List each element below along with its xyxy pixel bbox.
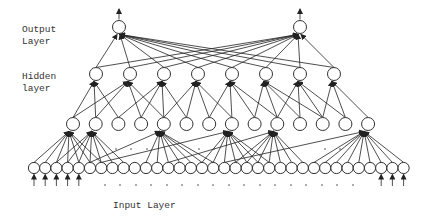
lower-hidden-neuron — [339, 118, 352, 131]
input-neuron — [51, 162, 62, 173]
input-neuron — [185, 162, 196, 173]
lower-hidden-neuron — [316, 118, 329, 131]
lower-hidden-neuron — [248, 118, 261, 131]
ellipsis-dot — [119, 184, 121, 186]
input-neuron — [264, 162, 275, 173]
lower-hidden-neuron — [89, 118, 102, 131]
connection-edge — [230, 82, 255, 118]
output-neuron — [113, 21, 126, 34]
ellipsis-dot — [336, 184, 338, 186]
connection-edge — [128, 82, 141, 118]
connection-edge — [273, 132, 291, 163]
input-neuron — [320, 162, 331, 173]
ellipsis-dot — [150, 184, 152, 186]
input-neuron — [107, 162, 118, 173]
ellipsis-dot — [290, 184, 292, 186]
output-layer-label-line2: Layer — [22, 36, 51, 47]
connection-edge — [68, 132, 69, 163]
connection-edge — [264, 82, 323, 118]
connection-edge — [168, 132, 273, 163]
connection-edge — [96, 35, 117, 68]
upper-hidden-neuron — [158, 68, 171, 81]
input-neuron — [342, 162, 353, 173]
connection-edge — [332, 82, 368, 118]
ellipsis-dot — [212, 184, 214, 186]
upper-hidden-neuron — [294, 68, 307, 81]
input-neuron — [118, 162, 129, 173]
connection-edge — [273, 132, 303, 163]
input-neuron — [219, 162, 230, 173]
input-neuron — [230, 162, 241, 173]
connection-edge — [34, 132, 69, 163]
ellipsis-dot — [352, 184, 354, 186]
ellipsis-dot — [104, 184, 106, 186]
connection-edge — [73, 82, 94, 118]
ellipsis-dot — [213, 148, 215, 150]
ellipsis-dot — [135, 184, 137, 186]
input-neuron — [73, 162, 84, 173]
input-neuron — [28, 162, 39, 173]
connection-edge — [202, 132, 228, 163]
connection-edge — [298, 35, 300, 68]
connection-edge — [301, 35, 334, 68]
output-neuron — [294, 21, 307, 34]
input-neuron — [84, 162, 95, 173]
ellipsis-dot — [324, 148, 326, 150]
ellipsis-dot — [146, 148, 148, 150]
lower-hidden-neuron — [180, 118, 193, 131]
ellipsis-dot — [321, 184, 323, 186]
ellipsis-dot — [181, 184, 183, 186]
lower-hidden-neuron — [157, 118, 170, 131]
ellipsis-dot — [274, 184, 276, 186]
upper-hidden-neuron — [328, 68, 341, 81]
connection-edge — [118, 82, 162, 118]
input-neuron — [163, 162, 174, 173]
ellipsis-dot — [197, 184, 199, 186]
input-neuron — [331, 162, 342, 173]
ellipsis-dot — [339, 148, 341, 150]
connection-edge — [230, 82, 277, 118]
connection-edge — [298, 82, 323, 118]
input-neuron — [196, 162, 207, 173]
lower-hidden-neuron — [67, 118, 80, 131]
connection-edge — [90, 132, 160, 163]
connection-edge — [314, 132, 364, 163]
upper-hidden-neuron — [260, 68, 273, 81]
connection-edge — [273, 132, 280, 163]
upper-hidden-neuron — [192, 68, 205, 81]
connection-edge — [162, 82, 164, 118]
input-neuron — [308, 162, 319, 173]
input-neuron — [129, 162, 140, 173]
lower-hidden-neuron — [294, 118, 307, 131]
lower-hidden-neuron — [271, 118, 284, 131]
connection-edge — [120, 35, 198, 68]
ellipsis-dot — [259, 184, 261, 186]
connection-edge — [230, 82, 232, 118]
input-neuron — [241, 162, 252, 173]
input-neuron — [40, 162, 51, 173]
connection-edge — [236, 132, 274, 163]
input-neuron — [174, 162, 185, 173]
input-neuron — [140, 162, 151, 173]
input-neuron — [152, 162, 163, 173]
connection-edge — [196, 82, 209, 118]
lower-hidden-neuron — [135, 118, 148, 131]
upper-hidden-neuron — [124, 68, 137, 81]
input-layer-label: Input Layer — [113, 200, 176, 211]
connection-edge — [79, 132, 92, 163]
connection-edge — [92, 132, 113, 163]
lower-hidden-neuron — [225, 118, 238, 131]
connection-edge — [68, 132, 92, 163]
ellipsis-dot — [305, 184, 307, 186]
upper-hidden-neuron — [226, 68, 239, 81]
connection-edge — [56, 132, 69, 163]
neural-network-diagram: Output Layer Hidden layer Input Layer — [0, 0, 431, 220]
input-neuron — [96, 162, 107, 173]
connection-edge — [364, 132, 404, 163]
ellipsis-dot — [130, 148, 132, 150]
connections — [34, 35, 404, 163]
input-neuron — [353, 162, 364, 173]
connection-edge — [94, 82, 96, 118]
lower-hidden-neuron — [203, 118, 216, 131]
lower-hidden-neuron — [362, 118, 375, 131]
